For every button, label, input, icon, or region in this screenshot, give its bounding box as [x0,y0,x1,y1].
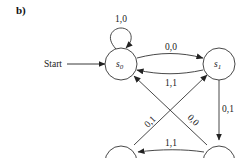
transition-label: 0,0 [186,112,202,128]
start-label: Start [44,59,62,69]
transition-label: 0,1 [222,104,234,114]
state-s2 [203,146,235,158]
transition-label: 0,0 [165,42,177,52]
state-s1: s1 [203,48,235,80]
edge-s1-s0 [137,70,203,74]
transition-label: 1,1 [165,138,177,148]
edge-s2-s3 [138,150,204,152]
self-loop-s0 [110,28,131,49]
state-diagram: b) Start s0 1,0 s1 0,0 1,1 0,1 0,1 0,0 1… [0,0,244,158]
transition-label: 1,0 [115,14,127,24]
transition-label: 0,1 [142,114,158,130]
edge-s0-s1 [137,54,203,59]
state-s0: s0 [105,48,137,80]
figure-label: b) [16,4,26,17]
transition-label: 1,1 [165,78,177,88]
state-s3 [105,146,137,158]
